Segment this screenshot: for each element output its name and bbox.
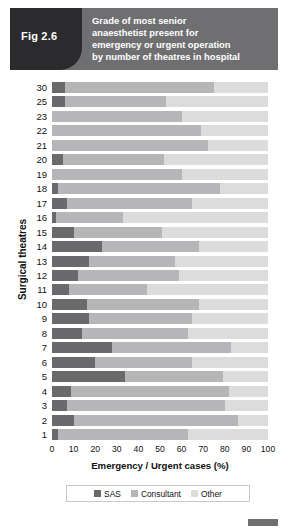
legend-item: Other — [191, 489, 222, 499]
legend-swatch-icon — [131, 490, 138, 497]
bar-segment-sas — [52, 386, 71, 397]
bar-segment-other — [208, 140, 268, 151]
y-axis-tick-label: 21 — [19, 140, 47, 151]
legend-label: Consultant — [141, 489, 181, 499]
bar-row: 14 — [52, 241, 268, 252]
bar-segment-consultant — [58, 183, 220, 194]
bar-segment-sas — [52, 284, 69, 295]
bar-segment-other — [214, 82, 268, 93]
y-axis-tick-label: 12 — [19, 270, 47, 281]
legend-swatch-icon — [191, 490, 198, 497]
bar-segment-consultant — [69, 284, 147, 295]
bar-segment-other — [147, 284, 268, 295]
bar-segment-consultant — [112, 342, 231, 353]
bar-row: 25 — [52, 96, 268, 107]
bar-segment-sas — [52, 227, 74, 238]
bar-segment-consultant — [71, 386, 229, 397]
bar-segment-consultant — [95, 357, 192, 368]
figure-tag-label: Fig 2.6 — [21, 30, 57, 42]
x-axis-tick-label: 10 — [69, 444, 79, 454]
x-axis-tick-label: 90 — [242, 444, 252, 454]
bar-row: 4 — [52, 386, 268, 397]
y-axis-tick-label: 9 — [19, 313, 47, 324]
y-axis-tick-label: 7 — [19, 342, 47, 353]
bar-row: 21 — [52, 140, 268, 151]
bar-row: 18 — [52, 183, 268, 194]
x-axis-tick-label: 40 — [134, 444, 144, 454]
bar-row: 23 — [52, 111, 268, 122]
bar-segment-other — [192, 313, 268, 324]
bar-segment-other — [192, 198, 268, 209]
bar-segment-other — [162, 227, 268, 238]
bar-segment-consultant — [87, 299, 199, 310]
bar-segment-sas — [52, 415, 74, 426]
bar-segment-other — [238, 415, 268, 426]
bar-segment-other — [199, 299, 268, 310]
bar-segment-other — [229, 386, 268, 397]
bar-segment-sas — [52, 154, 63, 165]
bar-segment-other — [188, 328, 268, 339]
bar-segment-other — [188, 429, 268, 440]
bar-segment-consultant — [63, 154, 165, 165]
bar-row: 17 — [52, 198, 268, 209]
legend-swatch-icon — [94, 490, 101, 497]
y-axis-tick-label: 17 — [19, 198, 47, 209]
y-axis-tick-label: 5 — [19, 371, 47, 382]
bar-segment-other — [175, 256, 268, 267]
bar-segment-sas — [52, 313, 89, 324]
bar-segment-other — [164, 154, 268, 165]
bar-row: 10 — [52, 299, 268, 310]
bar-segment-other — [166, 96, 268, 107]
bar-segment-consultant — [52, 140, 208, 151]
bar-row: 6 — [52, 357, 268, 368]
chart-legend: SASConsultantOther — [66, 485, 250, 502]
bar-segment-sas — [52, 299, 87, 310]
bar-segment-other — [199, 241, 268, 252]
y-axis-tick-label: 30 — [19, 82, 47, 93]
bar-row: 5 — [52, 371, 268, 382]
x-axis-tick-label: 0 — [50, 444, 55, 454]
bar-row: 22 — [52, 125, 268, 136]
figure-title-line-1: Grade of most senior — [92, 15, 274, 27]
legend-label: SAS — [104, 489, 121, 499]
bar-row: 11 — [52, 284, 268, 295]
bar-segment-other — [179, 270, 268, 281]
legend-item: Consultant — [131, 489, 181, 499]
bar-segment-sas — [52, 82, 65, 93]
bar-segment-consultant — [125, 371, 222, 382]
figure-title-line-4: by number of theatres in hospital — [92, 51, 274, 63]
bar-row: 15 — [52, 227, 268, 238]
figure-title-line-2: anaesthetist present for — [92, 27, 274, 39]
y-axis-tick-label: 19 — [19, 169, 47, 180]
bar-row: 13 — [52, 256, 268, 267]
figure-page: Fig 2.6 Grade of most senior anaesthetis… — [0, 0, 288, 532]
plot-area: 3025232221201918171615141312111098765432… — [52, 80, 268, 442]
bar-row: 1 — [52, 429, 268, 440]
bar-segment-other — [123, 212, 268, 223]
bar-row: 19 — [52, 169, 268, 180]
page-corner-mark — [248, 519, 278, 526]
y-axis-tick-label: 20 — [19, 154, 47, 165]
y-axis-tick-label: 6 — [19, 357, 47, 368]
bar-segment-consultant — [89, 256, 175, 267]
bar-segment-other — [225, 400, 268, 411]
bar-segment-other — [182, 169, 268, 180]
x-axis-ticks: 0102030405060708090100 — [52, 444, 268, 460]
bar-segment-consultant — [82, 328, 188, 339]
bar-segment-consultant — [65, 96, 167, 107]
bar-segment-sas — [52, 198, 67, 209]
figure-header: Fig 2.6 Grade of most senior anaesthetis… — [10, 8, 278, 70]
bar-row: 8 — [52, 328, 268, 339]
chart-area: Surgical theatres 3025232221201918171615… — [10, 76, 278, 506]
y-axis-tick-label: 10 — [19, 299, 47, 310]
y-axis-tick-label: 18 — [19, 183, 47, 194]
bar-segment-consultant — [78, 270, 180, 281]
x-axis-tick-label: 50 — [155, 444, 165, 454]
y-axis-tick-label: 23 — [19, 111, 47, 122]
bar-segment-other — [231, 342, 268, 353]
bar-segment-consultant — [52, 169, 182, 180]
bar-segment-sas — [52, 357, 95, 368]
x-axis-tick-label: 60 — [177, 444, 187, 454]
bar-segment-consultant — [89, 313, 193, 324]
y-axis-tick-label: 3 — [19, 400, 47, 411]
